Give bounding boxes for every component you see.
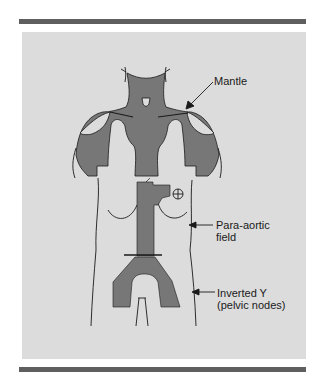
inverted-y-field: [113, 257, 180, 307]
label-para-aortic: Para-aortic field: [216, 219, 270, 243]
para-aortic-field: [137, 182, 170, 256]
label-inverted-y: Inverted Y (pelvic nodes): [217, 287, 285, 311]
label-para-aortic-line2: field: [216, 231, 270, 243]
label-inverted-y-line1: Inverted Y: [217, 287, 285, 299]
label-inverted-y-line2: (pelvic nodes): [217, 299, 285, 311]
body-diagram: [0, 0, 321, 387]
kidney-marker-icon: [173, 189, 183, 199]
label-para-aortic-line1: Para-aortic: [216, 219, 270, 231]
label-mantle: Mantle: [214, 75, 247, 87]
bottom-rule: [19, 367, 306, 372]
